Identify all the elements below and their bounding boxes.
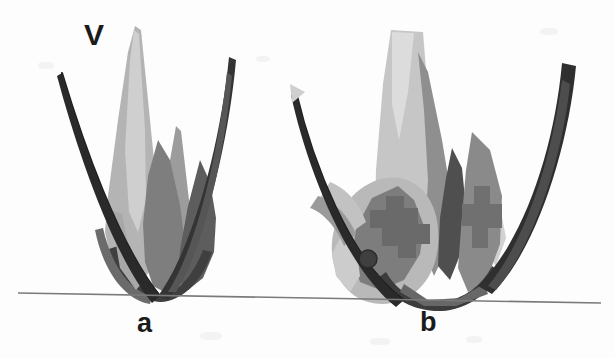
panel-label-b: b [420,309,437,336]
scan-speck [370,338,390,345]
baseline-axis [18,293,601,303]
scan-speck [466,336,482,343]
scan-speck [200,332,222,340]
panel-b-potential-well [290,30,576,311]
figure-canvas [0,0,615,358]
potential-energy-figure: V a b [0,0,615,358]
axis-label-v: V [84,20,104,50]
scan-speck [38,62,54,69]
panel-label-a: a [137,310,152,337]
well-b-right-arm-inner [488,80,570,290]
panel-a-potential-well [57,26,236,304]
scan-speck [540,28,558,35]
scan-speck [256,56,270,62]
